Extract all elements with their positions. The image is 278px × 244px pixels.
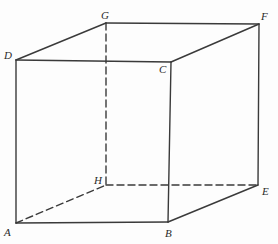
- vertex-label-D: D: [4, 50, 12, 61]
- vertex-label-E: E: [262, 186, 269, 197]
- edge-C-B: [168, 62, 171, 222]
- vertex-label-B: B: [165, 228, 172, 239]
- hidden-edges-group: [16, 23, 258, 223]
- vertex-label-F: F: [261, 11, 268, 22]
- edge-B-A: [16, 222, 168, 223]
- vertex-label-A: A: [4, 227, 11, 238]
- edge-C-F: [171, 24, 259, 62]
- vertex-label-G: G: [101, 10, 109, 21]
- cube-diagram-figure: A B C D E F G H: [0, 0, 278, 244]
- vertex-label-H: H: [94, 175, 102, 186]
- vertex-label-C: C: [159, 64, 166, 75]
- edge-D-G: [16, 23, 106, 60]
- edge-B-E: [168, 185, 258, 222]
- cube-wireframe-svg: [0, 0, 278, 244]
- edge-G-F: [106, 23, 259, 24]
- edge-D-C: [16, 60, 171, 62]
- edge-A-H: [16, 185, 106, 223]
- visible-edges-group: [16, 23, 259, 223]
- edge-F-E: [258, 24, 259, 185]
